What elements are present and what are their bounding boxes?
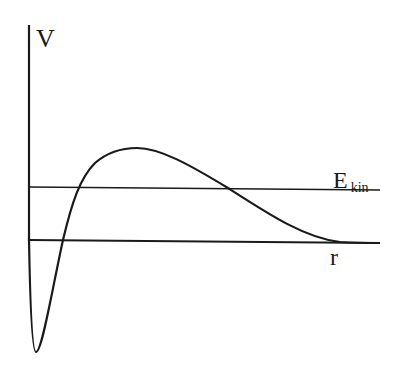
ekin-label-main: E [333,167,348,193]
ekin-label: Ekin [333,168,369,192]
potential-diagram: V Ekin r [0,0,399,374]
potential-curve [29,148,380,352]
y-axis-label: V [36,26,55,52]
ekin-level-line [29,187,380,190]
x-axis-label: r [330,245,338,269]
ekin-label-sub: kin [351,180,369,195]
